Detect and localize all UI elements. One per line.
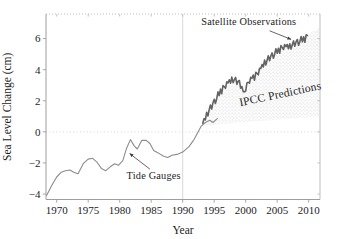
x-axis-title: Year bbox=[172, 224, 193, 236]
sea-level-chart: 197019751980198519901995200020052010−4−2… bbox=[0, 0, 346, 239]
x-tick-label: 1980 bbox=[109, 204, 132, 216]
y-tick-label: 0 bbox=[35, 126, 41, 138]
tide-gauges-label: Tide Gauges bbox=[127, 170, 181, 181]
x-tick-label: 1990 bbox=[172, 204, 195, 216]
x-tick-label: 1995 bbox=[203, 204, 226, 216]
satellite-observations-label: Satellite Observations bbox=[201, 16, 296, 27]
satellite-observations-label-arrow bbox=[270, 31, 291, 40]
y-tick-label: −4 bbox=[29, 188, 41, 200]
x-tick-label: 1970 bbox=[46, 204, 69, 216]
y-tick-label: −2 bbox=[29, 157, 41, 169]
y-axis-title: Sea Level Change (cm) bbox=[1, 52, 14, 160]
x-tick-label: 1975 bbox=[77, 204, 100, 216]
tide-gauges-label-arrow bbox=[130, 154, 150, 170]
x-tick-label: 1985 bbox=[140, 204, 163, 216]
y-tick-label: 4 bbox=[35, 64, 41, 76]
x-tick-label: 2000 bbox=[235, 204, 258, 216]
y-tick-label: 6 bbox=[35, 32, 41, 44]
tide-gauges-line bbox=[47, 119, 218, 196]
x-tick-label: 2005 bbox=[266, 204, 289, 216]
ipcc-predictions-band bbox=[202, 28, 320, 125]
x-tick-label: 2010 bbox=[298, 204, 321, 216]
y-tick-label: 2 bbox=[35, 95, 41, 107]
sea-level-change-figure: 197019751980198519901995200020052010−4−2… bbox=[0, 0, 346, 239]
